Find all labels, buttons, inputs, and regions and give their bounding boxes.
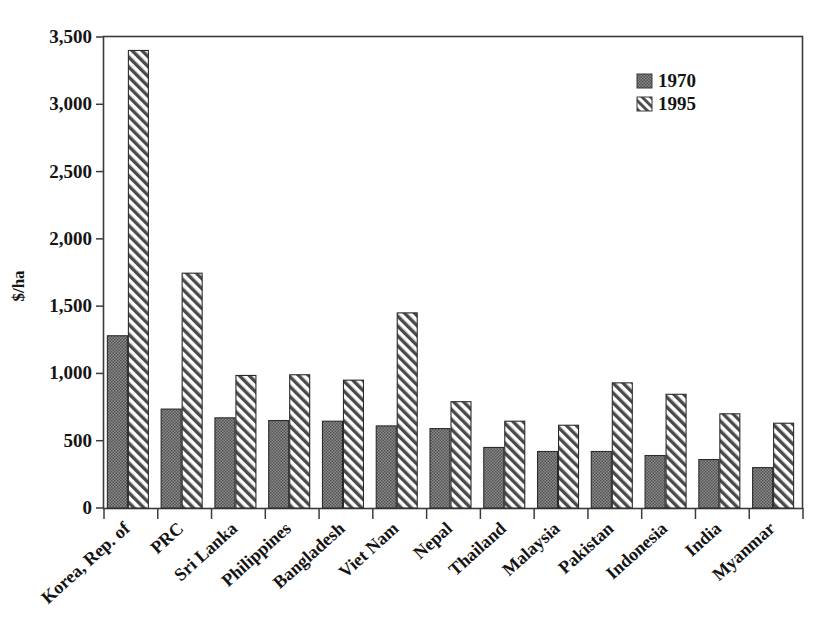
bar-1970 (753, 468, 773, 508)
legend-swatch-1970 (637, 74, 652, 88)
legend-label-1970: 1970 (658, 70, 696, 91)
bar-1995 (612, 383, 632, 508)
bars-layer (107, 50, 793, 508)
x-category-label: Malaysia (498, 518, 563, 580)
bar-1995 (236, 375, 256, 508)
bar-1970 (591, 451, 611, 508)
x-category-label: Nepal (409, 518, 456, 563)
y-tick-label: 2,500 (49, 161, 92, 182)
bar-1970 (107, 336, 127, 508)
x-category-label: Thailand (445, 518, 510, 580)
bar-1995 (397, 313, 417, 508)
bar-1970 (699, 460, 719, 508)
y-tick-label: 0 (83, 497, 93, 518)
bar-1970 (430, 429, 450, 508)
bar-1970 (538, 451, 558, 508)
x-category-label: PRC (146, 518, 187, 558)
bar-1995 (774, 423, 794, 508)
y-tick-label: 2,000 (49, 228, 92, 249)
bar-1970 (645, 456, 665, 508)
bar-1995 (720, 414, 740, 508)
x-category-label: India (681, 518, 725, 560)
x-axis-category-labels: Korea, Rep. ofPRCSri LankaPhilippinesBan… (37, 517, 779, 607)
bar-1970 (322, 421, 342, 508)
y-axis-title: $/ha (9, 270, 28, 302)
chart-legend: 19701995 (637, 70, 696, 114)
y-tick-label: 1,000 (49, 362, 92, 383)
y-tick-label: 3,500 (49, 26, 92, 47)
x-category-label: Viet Nam (335, 518, 402, 582)
y-tick-label: 3,000 (49, 93, 92, 114)
y-tick-label: 500 (64, 430, 93, 451)
legend-label-1995: 1995 (658, 93, 696, 114)
bar-1995 (505, 421, 525, 508)
x-axis-tick-marks (104, 508, 803, 519)
chart-canvas: 05001,0001,5002,0002,5003,0003,500 Korea… (0, 0, 819, 642)
bar-1970 (376, 426, 396, 508)
y-tick-label: 1,500 (49, 295, 92, 316)
x-category-label: Korea, Rep. of (37, 517, 134, 607)
bar-1970 (161, 409, 181, 508)
bar-1970 (215, 418, 235, 508)
legend-swatch-1995 (637, 97, 652, 111)
bar-1970 (484, 447, 504, 508)
bar-1970 (269, 421, 289, 508)
bar-1995 (559, 425, 579, 508)
bar-1995 (343, 380, 363, 508)
bar-1995 (451, 402, 471, 508)
y-axis-tick-labels: 05001,0001,5002,0002,5003,0003,500 (49, 26, 92, 518)
bar-1995 (666, 394, 686, 508)
bar-1995 (128, 50, 148, 508)
bar-chart: 05001,0001,5002,0002,5003,0003,500 Korea… (0, 0, 819, 642)
bar-1995 (290, 375, 310, 508)
bar-1995 (182, 273, 202, 508)
